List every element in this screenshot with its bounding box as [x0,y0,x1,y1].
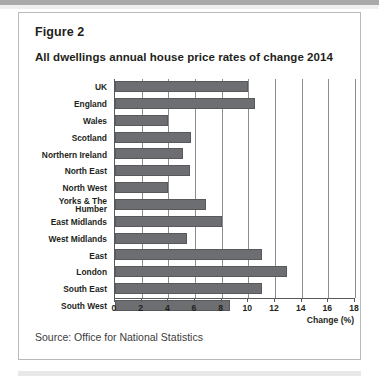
x-tick-label-14: 14 [296,303,306,313]
chart-category-label: South East [19,281,111,298]
x-tick-mark-2 [141,298,142,302]
chart-category-label: East [19,247,111,264]
chart-bar[interactable] [115,115,168,126]
x-tick-label-8: 8 [218,303,223,313]
chart-bar[interactable] [115,233,187,244]
x-tick-mark-16 [327,298,328,302]
chart-category-label: London [19,264,111,281]
chart-bar-row [115,281,354,298]
chart-category-label-line: Northern Ireland [42,151,107,160]
x-tick-mark-12 [274,298,275,302]
x-tick-label-6: 6 [192,303,197,313]
figure-card: Figure 2 All dwellings annual house pric… [18,12,361,360]
chart-category-label-line: England [74,100,107,109]
chart-bar[interactable] [115,98,255,109]
chart-bar[interactable] [115,148,183,159]
chart-bar-row [115,96,354,113]
chart-category-label: Scotland [19,130,111,147]
chart-bar[interactable] [115,199,206,210]
x-tick-mark-8 [221,298,222,302]
chart-bar[interactable] [115,182,168,193]
x-tick-mark-18 [354,298,355,302]
x-tick-label-4: 4 [165,303,170,313]
x-tick-mark-6 [194,298,195,302]
chart-bar-row [115,197,354,214]
chart-bar-row [115,163,354,180]
chart-category-label-line: South West [61,302,107,311]
chart-category-label: North East [19,163,111,180]
chart-plot-wrapper: UKEnglandWalesScotlandNorthern IrelandNo… [19,75,362,315]
chart-bar[interactable] [115,216,222,227]
chart-bar[interactable] [115,283,262,294]
chart-bar-row [115,264,354,281]
chart-bar[interactable] [115,300,230,311]
page-bottom-strip [18,371,361,376]
chart-bar[interactable] [115,266,287,277]
chart-bar-row [115,298,354,315]
gridline-18 [355,79,356,298]
chart-bar-row [115,214,354,231]
chart-bar-row [115,231,354,248]
x-tick-label-12: 12 [269,303,279,313]
chart-category-label: UK [19,79,111,96]
chart-bar-row [115,130,354,147]
chart-category-label-line: UK [95,83,107,92]
chart-bar[interactable] [115,249,262,260]
x-tick-label-0: 0 [112,303,117,313]
chart-x-axis-line [114,298,355,299]
chart-bar[interactable] [115,165,190,176]
x-tick-mark-10 [247,298,248,302]
chart-x-axis-title: Change (%) [307,315,354,325]
chart-bar[interactable] [115,81,248,92]
chart-category-label-line: East Midlands [51,218,107,227]
chart-bar-row [115,146,354,163]
chart-category-label-line: North East [65,167,107,176]
chart-category-label-line: West Midlands [49,235,107,244]
x-tick-label-16: 16 [323,303,333,313]
x-tick-mark-14 [301,298,302,302]
chart-category-label-line: Humber [75,205,107,214]
page-top-strip-light [0,5,379,9]
x-tick-label-18: 18 [349,303,359,313]
x-tick-label-10: 10 [243,303,253,313]
chart-category-label: Wales [19,113,111,130]
chart-category-label-line: Wales [83,117,107,126]
chart-category-label: South West [19,298,111,315]
chart-category-axis: UKEnglandWalesScotlandNorthern IrelandNo… [19,79,111,298]
chart-category-label: Northern Ireland [19,146,111,163]
chart-category-label-line: London [76,268,107,277]
chart-category-label: North West [19,180,111,197]
chart-plot-area [114,79,354,298]
chart-category-label-line: North West [62,184,107,193]
x-tick-label-2: 2 [138,303,143,313]
x-tick-mark-4 [167,298,168,302]
chart-category-label-line: Scotland [72,134,107,143]
chart-category-label: East Midlands [19,214,111,231]
chart-bar-row [115,79,354,96]
chart-title: All dwellings annual house price rates o… [35,51,333,63]
figure-label: Figure 2 [35,25,84,39]
chart-category-label-line: South East [63,285,107,294]
chart-bar[interactable] [115,132,191,143]
chart-bar-row [115,113,354,130]
chart-bar-row [115,180,354,197]
chart-category-label: West Midlands [19,231,111,248]
x-tick-mark-0 [114,298,115,302]
source-note: Source: Office for National Statistics [35,331,203,343]
chart-bars [115,79,354,298]
chart-category-label-line: East [89,252,107,261]
chart-category-label: England [19,96,111,113]
chart-bar-row [115,247,354,264]
chart-category-label: Yorks & TheHumber [19,197,111,214]
